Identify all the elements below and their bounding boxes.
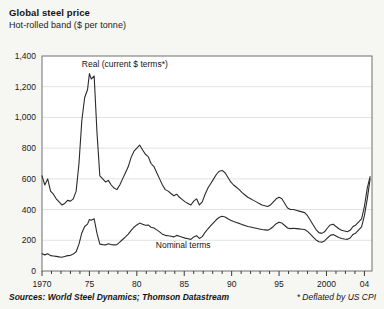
chart-sources: Sources: World Steel Dynamics; Thomson D… — [9, 292, 229, 302]
x-axis-label-90: 90 — [227, 279, 237, 289]
y-axis-label-0: 0 — [31, 266, 36, 276]
y-axis-label-200: 200 — [22, 235, 36, 245]
chart-footnote: * Deflated by US CPI — [297, 292, 376, 302]
y-axis-label-800: 800 — [22, 143, 36, 153]
x-axis-label-2000: 2000 — [317, 279, 336, 289]
x-axis-label-85: 85 — [180, 279, 190, 289]
x-axis-label-75: 75 — [85, 279, 95, 289]
series-annotation-real: Real (current $ terms*) — [82, 59, 168, 69]
plot-background — [42, 56, 372, 271]
line-chart-svg: 02004006008001,0001,2001,400197075808590… — [0, 0, 384, 309]
series-annotation-nominal: Nominal terms — [156, 240, 211, 250]
y-axis-label-400: 400 — [22, 205, 36, 215]
x-axis-label-04: 04 — [360, 279, 370, 289]
y-axis-label-1000: 1,000 — [15, 112, 37, 122]
x-axis-label-80: 80 — [132, 279, 142, 289]
y-axis-label-1400: 1,400 — [15, 51, 37, 61]
x-axis-label-95: 95 — [274, 279, 284, 289]
y-axis-label-600: 600 — [22, 174, 36, 184]
y-axis-label-1200: 1,200 — [15, 82, 37, 92]
chart-figure: Global steel price Hot-rolled band ($ pe… — [0, 0, 384, 309]
x-axis-label-1970: 1970 — [33, 279, 52, 289]
